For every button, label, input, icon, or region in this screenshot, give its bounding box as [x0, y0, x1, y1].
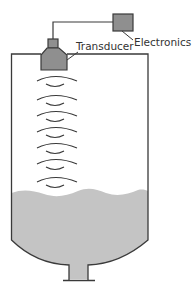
ultrasonic-waves: [37, 77, 77, 188]
wave-pair: [37, 128, 77, 138]
transducer-leader: [67, 52, 78, 60]
ultrasonic-level-diagram: Electronics Transducer: [0, 0, 192, 289]
wave-pair: [37, 112, 77, 122]
wave-pair: [37, 77, 77, 87]
electronics-box: [113, 14, 133, 31]
wave-pair: [37, 160, 77, 170]
electronics-label: Electronics: [134, 36, 191, 48]
liquid: [12, 189, 149, 279]
transducer-label: Transducer: [75, 40, 134, 52]
cable: [53, 22, 113, 39]
wave-pair: [37, 178, 77, 188]
transducer-body: [41, 48, 67, 70]
transducer-neck: [48, 39, 58, 48]
wave-pair: [37, 144, 77, 154]
wave-pair: [37, 96, 77, 106]
electronics-leader: [122, 31, 133, 40]
